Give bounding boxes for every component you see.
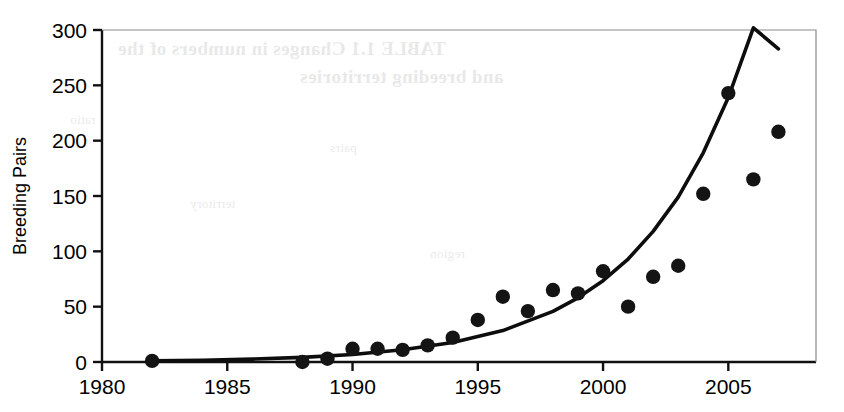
- data-point: [446, 330, 460, 344]
- data-point: [320, 351, 334, 365]
- data-point-markers: [145, 86, 786, 369]
- data-point: [420, 338, 434, 352]
- y-axis-ticks: [93, 30, 102, 362]
- data-point: [145, 354, 159, 368]
- data-point: [295, 355, 309, 369]
- figure-container: TABLE 1.1 Changes in numbers of the and …: [0, 0, 844, 412]
- x-axis-ticks: [102, 362, 728, 371]
- y-tick-label: 0: [75, 351, 87, 374]
- trend-line-path: [152, 28, 778, 361]
- y-tick-label: 50: [64, 295, 87, 318]
- data-point: [671, 259, 685, 273]
- data-point: [496, 290, 510, 304]
- x-tick-label: 2005: [705, 375, 752, 398]
- y-tick-label: 100: [52, 240, 87, 263]
- data-point: [746, 172, 760, 186]
- y-tick-label: 150: [52, 185, 87, 208]
- y-tick-label: 250: [52, 74, 87, 97]
- data-point: [370, 342, 384, 356]
- fitted-trend-line: [152, 28, 778, 361]
- scatter-plot: 050100150200250300 198019851990199520002…: [0, 0, 844, 412]
- x-tick-label: 1985: [204, 375, 251, 398]
- data-point: [621, 299, 635, 313]
- x-axis-tick-labels: 198019851990199520002005: [79, 375, 752, 398]
- y-axis-title: Breeding Pairs: [10, 137, 30, 255]
- data-point: [696, 187, 710, 201]
- data-point: [471, 313, 485, 327]
- data-point: [395, 343, 409, 357]
- x-tick-label: 2000: [580, 375, 627, 398]
- data-point: [546, 283, 560, 297]
- y-tick-label: 200: [52, 129, 87, 152]
- data-point: [771, 125, 785, 139]
- data-point: [596, 264, 610, 278]
- y-tick-label: 300: [52, 19, 87, 42]
- y-axis-tick-labels: 050100150200250300: [52, 19, 87, 374]
- data-point: [646, 270, 660, 284]
- x-tick-label: 1995: [454, 375, 501, 398]
- data-point: [721, 86, 735, 100]
- data-point: [571, 286, 585, 300]
- x-tick-label: 1980: [79, 375, 126, 398]
- x-tick-label: 1990: [329, 375, 376, 398]
- data-point: [521, 304, 535, 318]
- data-point: [345, 342, 359, 356]
